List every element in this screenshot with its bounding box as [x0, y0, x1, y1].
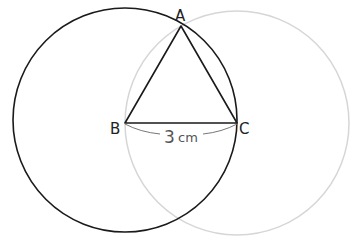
- point-label-b: B: [110, 120, 120, 138]
- measurement-value: 3: [164, 127, 175, 147]
- point-label-a: A: [175, 7, 186, 25]
- dimension-arc-bc-right: [203, 124, 237, 134]
- triangle-abc: [125, 26, 237, 123]
- dimension-arc-bc: [125, 124, 160, 134]
- measurement-unit: cm: [178, 130, 198, 145]
- point-label-c: C: [239, 120, 249, 138]
- construction-diagram: A B C 3 cm: [0, 0, 358, 236]
